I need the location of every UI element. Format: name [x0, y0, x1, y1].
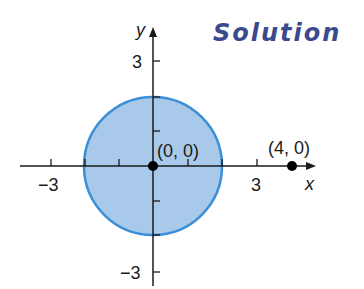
x-axis-arrow-icon	[306, 162, 316, 170]
y-axis-label: y	[134, 20, 146, 40]
point-4-0	[287, 161, 297, 171]
solution-title: Solution	[213, 19, 341, 47]
point-4-0-label: (4, 0)	[268, 138, 310, 158]
x-tick-label-3: 3	[251, 175, 261, 195]
x-tick-label-neg3: −3	[38, 175, 59, 195]
y-tick-label-neg3: −3	[120, 263, 141, 283]
y-tick-label-3: 3	[132, 52, 142, 72]
graph: y x 3 −3 −3 3 (0, 0) (4, 0) Solution	[0, 0, 364, 289]
y-axis-arrow-icon	[149, 27, 157, 37]
point-origin	[148, 161, 158, 171]
x-axis-label: x	[304, 174, 315, 194]
origin-label: (0, 0)	[157, 141, 199, 161]
